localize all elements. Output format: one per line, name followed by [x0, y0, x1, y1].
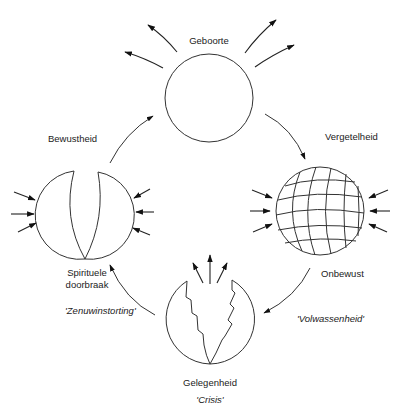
label-crisis: 'Crisis': [196, 394, 223, 406]
label-onbewust: Onbewust: [321, 268, 364, 280]
opportunity-sphere: [166, 280, 254, 364]
label-zenuwinstorting: 'Zenuwinstorting': [65, 305, 136, 317]
label-spirituele: Spirituele: [67, 267, 107, 279]
arrow-right-to-bottom: [264, 268, 310, 313]
oblivion-sphere: [276, 167, 364, 255]
label-volwassenheid: 'Volwassenheid': [297, 313, 364, 325]
label-geboorte: Geboorte: [189, 35, 229, 47]
upward-arrows-icon: [193, 255, 227, 284]
birth-sphere: [165, 54, 253, 142]
label-doorbraak: doorbraak: [66, 279, 109, 291]
label-gelegenheid: Gelegenheid: [183, 377, 237, 389]
awareness-sphere: [35, 171, 134, 259]
arrow-left-to-top: [110, 116, 153, 163]
arrow-top-to-right: [265, 114, 305, 159]
label-vergetelheid: Vergetelheid: [325, 131, 378, 143]
label-bewustheid: Bewustheid: [48, 133, 97, 145]
cycle-diagram: [0, 0, 400, 411]
